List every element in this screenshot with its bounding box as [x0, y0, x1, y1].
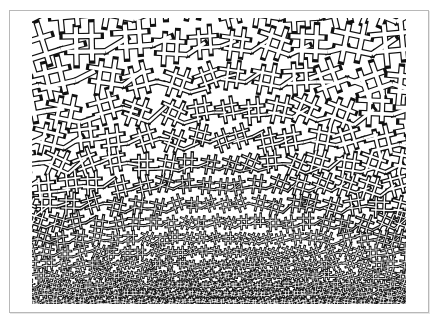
geometric-pattern-artwork [32, 18, 406, 304]
interlace-pattern-drawing [32, 18, 406, 304]
